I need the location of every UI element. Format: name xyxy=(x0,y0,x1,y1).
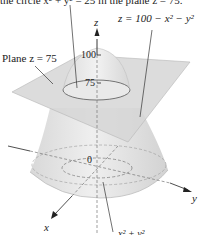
z-tick-100: 100 xyxy=(81,50,96,60)
plane-label: Plane z = 75 xyxy=(2,53,57,64)
paraboloid-diagram: the circle x² + y² = 25 in the plane z =… xyxy=(0,0,203,235)
origin-label: 0 xyxy=(87,155,92,165)
z-axis-label: z xyxy=(94,17,98,28)
caption-top-partial: the circle x² + y² = 25 in the plane z =… xyxy=(0,0,183,6)
x-axis-label: x xyxy=(44,222,49,233)
y-axis-label: y xyxy=(192,193,197,204)
bottom-label-partial: x² + y² xyxy=(118,229,145,235)
diagram-graphic xyxy=(0,0,203,235)
surface-equation-label: z = 100 − x² − y² xyxy=(118,13,194,24)
z-tick-75: 75 xyxy=(85,78,95,88)
paraboloid-cap xyxy=(63,48,130,100)
